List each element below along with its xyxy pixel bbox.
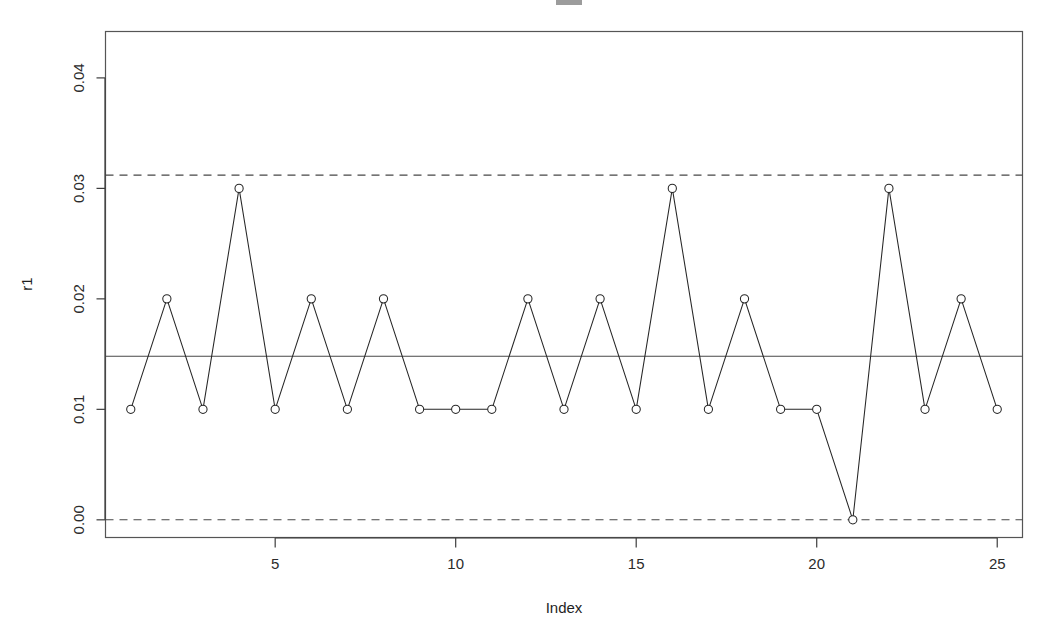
data-point-marker bbox=[235, 184, 243, 192]
x-tick-label: 15 bbox=[628, 555, 645, 572]
data-point-marker bbox=[849, 516, 857, 524]
data-point-marker bbox=[524, 295, 532, 303]
x-axis-title: Index bbox=[546, 599, 583, 616]
control-chart: 0.000.010.020.030.04 510152025 r1 Index bbox=[0, 0, 1048, 641]
x-tick-label: 25 bbox=[989, 555, 1006, 572]
y-tick-label: 0.02 bbox=[71, 284, 88, 313]
data-point-marker bbox=[163, 295, 171, 303]
data-point-marker bbox=[885, 184, 893, 192]
clipped-title bbox=[556, 0, 582, 5]
y-tick-label: 0.01 bbox=[71, 395, 88, 424]
data-point-marker bbox=[704, 405, 712, 413]
x-tick-label: 20 bbox=[808, 555, 825, 572]
data-point-marker bbox=[127, 405, 135, 413]
data-point-marker bbox=[199, 405, 207, 413]
data-point-marker bbox=[452, 405, 460, 413]
data-point-marker bbox=[560, 405, 568, 413]
data-point-marker bbox=[415, 405, 423, 413]
data-point-marker bbox=[596, 295, 604, 303]
data-point-marker bbox=[921, 405, 929, 413]
data-point-marker bbox=[957, 295, 965, 303]
data-point-marker bbox=[740, 295, 748, 303]
y-tick-label: 0.04 bbox=[71, 63, 88, 92]
data-point-marker bbox=[632, 405, 640, 413]
y-tick-label: 0.00 bbox=[71, 505, 88, 534]
data-point-marker bbox=[993, 405, 1001, 413]
y-axis-title: r1 bbox=[18, 277, 35, 290]
data-point-marker bbox=[813, 405, 821, 413]
data-point-marker bbox=[307, 295, 315, 303]
chart-canvas: 0.000.010.020.030.04 510152025 r1 Index bbox=[0, 0, 1048, 641]
data-point-marker bbox=[379, 295, 387, 303]
x-tick-label: 5 bbox=[271, 555, 279, 572]
data-point-marker bbox=[777, 405, 785, 413]
data-point-marker bbox=[488, 405, 496, 413]
chart-background bbox=[0, 0, 1048, 641]
x-tick-label: 10 bbox=[447, 555, 464, 572]
data-point-marker bbox=[271, 405, 279, 413]
y-tick-label: 0.03 bbox=[71, 174, 88, 203]
data-point-marker bbox=[668, 184, 676, 192]
data-point-marker bbox=[343, 405, 351, 413]
